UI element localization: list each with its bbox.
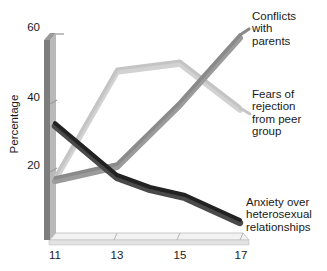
series-label-conflicts-with-parents: Conflicts with parents (252, 10, 296, 47)
x-axis-tick-label-11: 11 (41, 250, 69, 262)
x-axis-tick-label-17: 17 (227, 250, 255, 262)
series-conflicts-ribbon-upper (55, 35, 240, 178)
leader-line-conflicts (240, 29, 249, 35)
series-conflicts-ribbon-lower (55, 38, 240, 181)
x-axis-slab (49, 233, 249, 245)
chart-container: 60 40 20 Percentage 11 13 15 17 Conflict… (0, 0, 327, 271)
series-label-anxiety-heterosexual: Anxiety over heterosexual relationships (246, 196, 312, 233)
series-line-fears-of-rejection (55, 61, 240, 180)
y-axis-front-face (44, 40, 50, 240)
series-label-fears-of-rejection: Fears of rejection from peer group (252, 88, 301, 138)
series-line-conflicts-with-parents (55, 35, 240, 181)
x-axis-tick-label-15: 15 (166, 250, 194, 262)
series-fears-ribbon-lower (55, 64, 240, 180)
label-leader-lines (240, 29, 250, 114)
x-axis-tick-label-13: 13 (103, 250, 131, 262)
y-axis-title: Percentage (8, 84, 20, 164)
x-axis-slab-front (49, 240, 249, 245)
series-fears-ribbon-upper (55, 61, 240, 177)
y-axis-column (44, 33, 64, 240)
x-axis-slab-top (49, 233, 249, 240)
y-axis-tick-label-60: 60 (8, 22, 40, 34)
y-axis-side-face (50, 33, 56, 240)
